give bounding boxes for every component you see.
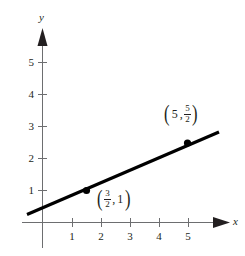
y-coordinate-value: 1 [116,193,124,205]
fraction-five-halves: 5 2 [184,104,191,124]
y-tick-label: 4 [22,89,34,100]
fraction-denominator: 2 [104,199,111,210]
fraction-three-halves: 3 2 [104,189,111,209]
x-axis-arrow-icon [213,217,230,228]
data-point-marker [83,187,90,194]
x-tick-label: 2 [94,231,108,242]
left-paren: ( [164,104,170,124]
y-tick-label: 1 [22,185,34,196]
line-graph-figure: y x 1 2 3 4 5 1 2 3 4 5 ( 3 2 , 1 ) ( 5 … [0,0,245,256]
y-axis-arrow-icon [38,28,48,46]
point-b-annotation: ( 5 , 5 2 ) [163,104,199,124]
x-tick-label: 5 [181,231,195,242]
y-tick-label: 3 [22,121,34,132]
right-paren: ) [192,104,198,124]
x-axis-label: x [233,216,238,227]
right-paren: ) [125,189,131,209]
fraction-numerator: 3 [104,189,111,199]
y-tick-label: 2 [22,153,34,164]
fraction-denominator: 2 [184,114,191,125]
y-tick-label: 5 [22,57,34,68]
x-tick-label: 3 [123,231,137,242]
x-tick-label: 1 [65,231,79,242]
point-a-annotation: ( 3 2 , 1 ) [96,189,132,209]
plot-area [0,0,245,256]
data-point-marker [184,139,191,146]
x-tick-label: 4 [152,231,166,242]
fraction-numerator: 5 [184,104,191,114]
x-coordinate-value: 5 [171,108,179,120]
comma-separator: , [179,108,184,120]
left-paren: ( [97,189,103,209]
y-axis-label: y [39,12,44,23]
